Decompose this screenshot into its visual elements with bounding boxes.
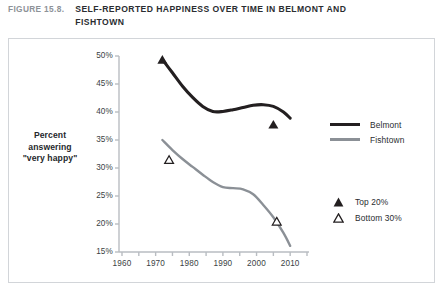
legend-swatch-fishtown	[330, 138, 360, 141]
y-axis-tick-label: 20%	[79, 219, 113, 228]
legend-markers: Top 20% Bottom 30%	[330, 194, 402, 226]
legend-item-top20: Top 20%	[330, 194, 402, 210]
legend-label-fishtown: Fishtown	[370, 135, 404, 145]
legend-label-belmont: Belmont	[370, 120, 402, 130]
y-axis-title: Percent answering "very happy"	[14, 130, 86, 165]
open-triangle-icon	[330, 213, 346, 223]
y-axis-tick-label: 25%	[79, 191, 113, 200]
y-axis-tick-label: 35%	[79, 135, 113, 144]
y-axis-tick-label: 40%	[79, 107, 113, 116]
legend-item-fishtown: Fishtown	[330, 132, 404, 147]
y-axis-title-line-1: Percent	[14, 130, 86, 142]
legend-item-belmont: Belmont	[330, 117, 404, 132]
figure-number: FIGURE 15.8.	[8, 3, 64, 14]
filled-triangle-icon	[330, 197, 346, 207]
y-axis-title-line-3: "very happy"	[14, 153, 86, 165]
figure-header: FIGURE 15.8. SELF-REPORTED HAPPINESS OVE…	[8, 3, 438, 28]
y-axis-title-line-2: answering	[14, 142, 86, 154]
y-axis-tick-label: 15%	[79, 247, 113, 256]
legend-series: Belmont Fishtown	[330, 117, 404, 147]
legend-label-bottom30: Bottom 30%	[355, 213, 402, 223]
y-axis-tick-label: 45%	[79, 79, 113, 88]
y-axis-tick-label: 30%	[79, 163, 113, 172]
x-axis-tick-label: 2010	[270, 259, 310, 268]
legend-label-top20: Top 20%	[355, 197, 388, 207]
legend-item-bottom30: Bottom 30%	[330, 210, 402, 226]
y-axis-tick-label: 50%	[79, 51, 113, 60]
figure-title: SELF-REPORTED HAPPINESS OVER TIME IN BEL…	[75, 3, 395, 28]
legend-swatch-belmont	[330, 123, 360, 126]
